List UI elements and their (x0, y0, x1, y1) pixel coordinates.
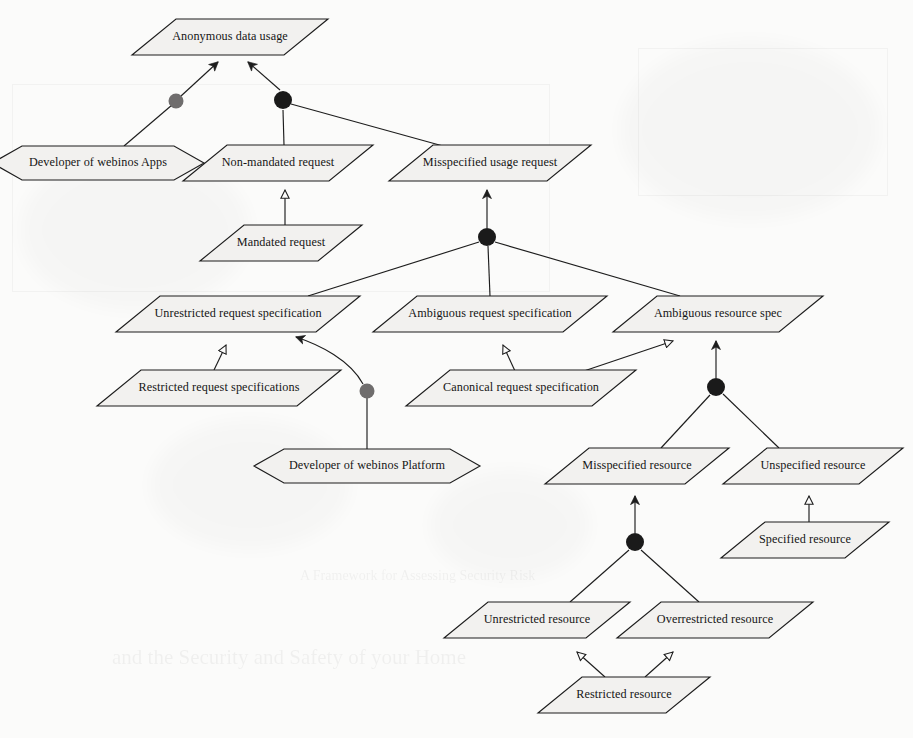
node-label: Restricted resource (576, 687, 672, 701)
edge-ambreq-junction (488, 246, 490, 296)
node-unspecres[interactable]: Unspecified resource (723, 448, 903, 484)
edge-unresreq-junction (308, 242, 479, 296)
node-devplat[interactable]: Developer of webinos Platform (254, 449, 480, 483)
edge-junction-anon-2 (248, 62, 280, 90)
edge-devapps-junction (124, 105, 172, 146)
junction-gray[interactable] (360, 384, 375, 399)
node-mandated[interactable]: Mandated request (200, 225, 362, 261)
node-misusage[interactable]: Misspecified usage request (389, 145, 591, 181)
edge-canonreq-ambres (578, 341, 673, 373)
edge-misres-junction (661, 395, 710, 448)
node-label: Ambiguous request specification (408, 306, 572, 320)
nodes-layer: Anonymous data usageDeveloper of webinos… (0, 19, 903, 713)
junction-dark[interactable] (478, 228, 496, 246)
edge-resreq-unresreq (214, 345, 226, 370)
junction-dark[interactable] (274, 91, 292, 109)
edge-unresres-junction (570, 550, 629, 602)
node-ambres[interactable]: Ambiguous resource spec (613, 296, 823, 332)
node-label: Restricted request specifications (138, 380, 299, 394)
edge-overres-junction (641, 550, 699, 602)
edge-canonreq-ambreq (503, 345, 515, 371)
node-devapps[interactable]: Developer of webinos Apps (0, 146, 204, 180)
node-label: Overrestricted resource (657, 612, 773, 626)
node-unresres[interactable]: Unrestricted resource (444, 602, 630, 638)
node-label: Unspecified resource (760, 458, 865, 472)
goal-model-graph: Anonymous data usageDeveloper of webinos… (0, 0, 913, 738)
node-label: Anonymous data usage (172, 29, 288, 43)
node-label: Mandated request (237, 235, 326, 249)
node-nonmand[interactable]: Non-mandated request (183, 145, 373, 181)
node-label: Misspecified resource (582, 458, 691, 472)
node-restres[interactable]: Restricted resource (538, 677, 710, 713)
node-resreq[interactable]: Restricted request specifications (97, 370, 341, 406)
edge-junction-anon (181, 62, 218, 96)
edge-restres-overres (645, 652, 673, 677)
node-label: Misspecified usage request (423, 155, 558, 169)
node-label: Ambiguous resource spec (654, 306, 783, 320)
node-label: Canonical request specification (443, 380, 599, 394)
node-label: Developer of webinos Apps (29, 155, 167, 169)
edge-nonmandated-junction (283, 110, 284, 145)
node-canonreq[interactable]: Canonical request specification (406, 370, 636, 406)
edge-unspecres-junction (723, 394, 779, 448)
node-label: Unrestricted resource (484, 612, 591, 626)
junction-dark[interactable] (626, 533, 644, 551)
junction-dark[interactable] (707, 378, 725, 396)
node-anon[interactable]: Anonymous data usage (132, 19, 328, 55)
node-unresreq[interactable]: Unrestricted request specification (116, 296, 360, 332)
node-label: Specified resource (759, 532, 851, 546)
edge-ambres-junction (495, 242, 680, 296)
node-ambreq[interactable]: Ambiguous request specification (373, 296, 607, 332)
edge-restres-unresres (577, 652, 605, 677)
node-label: Unrestricted request specification (154, 306, 321, 320)
edge-misusage-junction (291, 104, 443, 146)
diagram-canvas: and the Security and Safety of your Home… (0, 0, 913, 738)
node-misres[interactable]: Misspecified resource (545, 448, 729, 484)
junction-gray[interactable] (169, 94, 184, 109)
node-label: Non-mandated request (222, 155, 335, 169)
node-specres[interactable]: Specified resource (721, 522, 889, 558)
node-overres[interactable]: Overrestricted resource (617, 602, 813, 638)
node-label: Developer of webinos Platform (289, 458, 446, 472)
